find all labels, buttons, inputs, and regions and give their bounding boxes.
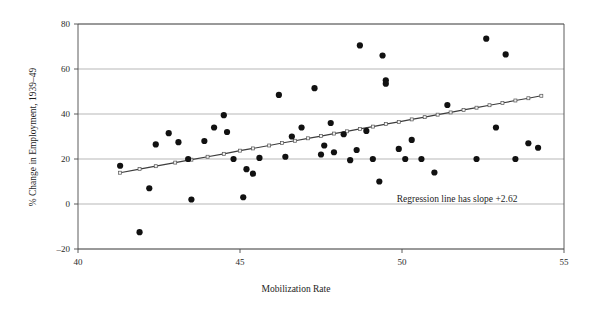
regression-marker bbox=[294, 139, 297, 142]
scatter-point bbox=[211, 124, 217, 130]
scatter-point bbox=[298, 124, 304, 130]
regression-marker bbox=[251, 147, 254, 150]
regression-marker bbox=[174, 161, 177, 164]
regression-marker bbox=[320, 135, 323, 138]
regression-marker bbox=[358, 127, 361, 130]
regression-marker bbox=[410, 118, 413, 121]
scatter-point bbox=[201, 138, 207, 144]
y-tick-label: 80 bbox=[61, 19, 71, 29]
x-tick-label: 55 bbox=[560, 257, 570, 267]
chart-figure: 40455055 –20020406080 Regression line ha… bbox=[0, 0, 592, 310]
scatter-point bbox=[188, 196, 194, 202]
regression-marker bbox=[371, 125, 374, 128]
scatter-point bbox=[409, 137, 415, 143]
x-axis-ticks bbox=[78, 249, 564, 253]
scatter-point bbox=[493, 124, 499, 130]
y-tick-label: –20 bbox=[56, 244, 71, 254]
regression-marker bbox=[239, 149, 242, 152]
scatter-point bbox=[341, 131, 347, 137]
scatter-point bbox=[347, 157, 353, 163]
regression-marker bbox=[436, 113, 439, 116]
scatter-point bbox=[230, 156, 236, 162]
scatter-point bbox=[444, 102, 450, 108]
scatter-point bbox=[256, 155, 262, 161]
y-axis-tick-labels: –20020406080 bbox=[56, 19, 71, 254]
scatter-point bbox=[383, 81, 389, 87]
scatter-point bbox=[146, 185, 152, 191]
scatter-point bbox=[276, 92, 282, 98]
regression-marker bbox=[138, 168, 141, 171]
scatter-point bbox=[418, 156, 424, 162]
scatter-point bbox=[224, 129, 230, 135]
scatter-point bbox=[318, 151, 324, 157]
scatter-point bbox=[250, 171, 256, 177]
x-axis-title: Mobilization Rate bbox=[262, 284, 331, 294]
regression-marker bbox=[449, 111, 452, 114]
scatter-point bbox=[357, 42, 363, 48]
regression-marker bbox=[462, 108, 465, 111]
regression-marker bbox=[332, 132, 335, 135]
scatter-plot-svg: 40455055 –20020406080 Regression line ha… bbox=[0, 0, 592, 310]
regression-marker bbox=[281, 142, 284, 145]
regression-line-series bbox=[119, 94, 543, 174]
scatter-point bbox=[379, 52, 385, 58]
scatter-point bbox=[483, 36, 489, 42]
scatter-point bbox=[512, 156, 518, 162]
regression-marker bbox=[384, 123, 387, 126]
scatter-point bbox=[370, 156, 376, 162]
scatter-point bbox=[503, 51, 509, 57]
y-axis-ticks bbox=[74, 24, 78, 249]
scatter-point bbox=[354, 147, 360, 153]
scatter-point bbox=[166, 130, 172, 136]
scatter-point bbox=[117, 163, 123, 169]
y-tick-label: 20 bbox=[61, 154, 71, 164]
regression-marker bbox=[488, 104, 491, 107]
scatter-point bbox=[282, 154, 288, 160]
scatter-point bbox=[363, 128, 369, 134]
x-tick-label: 40 bbox=[74, 257, 84, 267]
y-tick-label: 0 bbox=[66, 199, 71, 209]
scatter-point bbox=[221, 112, 227, 118]
regression-marker bbox=[501, 101, 504, 104]
y-tick-label: 40 bbox=[61, 109, 71, 119]
scatter-point bbox=[240, 194, 246, 200]
regression-marker bbox=[540, 94, 543, 97]
scatter-point bbox=[175, 139, 181, 145]
scatter-point bbox=[473, 156, 479, 162]
chart-annotations: Regression line has slope +2.62 bbox=[397, 194, 518, 204]
scatter-point bbox=[185, 156, 191, 162]
scatter-point bbox=[525, 140, 531, 146]
x-axis-tick-labels: 40455055 bbox=[74, 257, 570, 267]
scatter-point bbox=[243, 166, 249, 172]
regression-marker bbox=[206, 155, 209, 158]
scatter-point bbox=[376, 178, 382, 184]
scatter-point bbox=[289, 133, 295, 139]
regression-marker bbox=[222, 152, 225, 155]
scatter-point bbox=[402, 156, 408, 162]
scatter-point bbox=[321, 142, 327, 148]
x-tick-label: 50 bbox=[398, 257, 408, 267]
regression-marker bbox=[527, 97, 530, 100]
regression-marker bbox=[397, 120, 400, 123]
regression-marker bbox=[514, 99, 517, 102]
regression-marker bbox=[268, 144, 271, 147]
x-tick-label: 45 bbox=[236, 257, 246, 267]
scatter-point bbox=[153, 141, 159, 147]
regression-slope-annotation: Regression line has slope +2.62 bbox=[397, 194, 518, 204]
scatter-point bbox=[136, 229, 142, 235]
scatter-point bbox=[396, 146, 402, 152]
scatter-point bbox=[535, 145, 541, 151]
regression-marker bbox=[154, 165, 157, 168]
regression-marker bbox=[307, 137, 310, 140]
regression-marker bbox=[475, 106, 478, 109]
scatter-point bbox=[331, 149, 337, 155]
regression-marker bbox=[119, 171, 122, 174]
regression-marker bbox=[423, 116, 426, 119]
y-tick-label: 60 bbox=[61, 64, 71, 74]
scatter-point bbox=[311, 85, 317, 91]
y-axis-title: % Change in Employment, 1939–49 bbox=[28, 67, 38, 206]
scatter-point bbox=[431, 169, 437, 175]
scatter-point bbox=[328, 120, 334, 126]
scatter-points-series bbox=[117, 36, 541, 236]
